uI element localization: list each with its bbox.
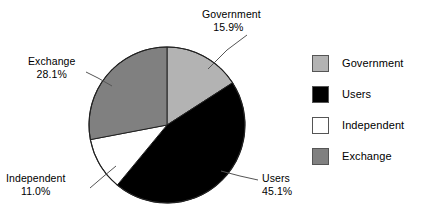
legend-item-users[interactable]: Users — [312, 85, 371, 103]
slice-label-government-percent: 15.9% — [202, 21, 261, 34]
slice-label-users-percent: 45.1% — [262, 185, 292, 198]
legend-swatch-independent — [312, 117, 329, 134]
chart-legend: Government Users Independent Exchange — [312, 50, 434, 178]
slice-label-users: Users 45.1% — [262, 172, 292, 197]
slice-label-users-name: Users — [262, 172, 292, 185]
legend-swatch-users — [312, 86, 329, 103]
legend-swatch-government — [312, 55, 329, 72]
legend-label-independent: Independent — [342, 119, 404, 131]
slice-label-independent-percent: 11.0% — [6, 185, 66, 198]
pie-chart-figure: Government 15.9% Exchange 28.1% Independ… — [0, 0, 440, 219]
slice-label-independent-name: Independent — [6, 172, 66, 185]
legend-swatch-exchange — [312, 148, 329, 165]
slice-label-exchange-percent: 28.1% — [28, 68, 76, 81]
legend-item-exchange[interactable]: Exchange — [312, 147, 392, 165]
legend-item-government[interactable]: Government — [312, 54, 404, 72]
legend-label-exchange: Exchange — [342, 150, 392, 162]
slice-label-exchange-name: Exchange — [28, 55, 76, 68]
pie-slices — [89, 47, 245, 203]
slice-label-exchange: Exchange 28.1% — [28, 55, 76, 80]
slice-label-government-name: Government — [202, 8, 261, 21]
legend-item-independent[interactable]: Independent — [312, 116, 404, 134]
slice-label-independent: Independent 11.0% — [6, 172, 66, 197]
legend-label-users: Users — [342, 88, 371, 100]
legend-label-government: Government — [342, 57, 404, 69]
slice-label-government: Government 15.9% — [202, 8, 261, 33]
pie-slice-exchange[interactable] — [89, 47, 167, 140]
